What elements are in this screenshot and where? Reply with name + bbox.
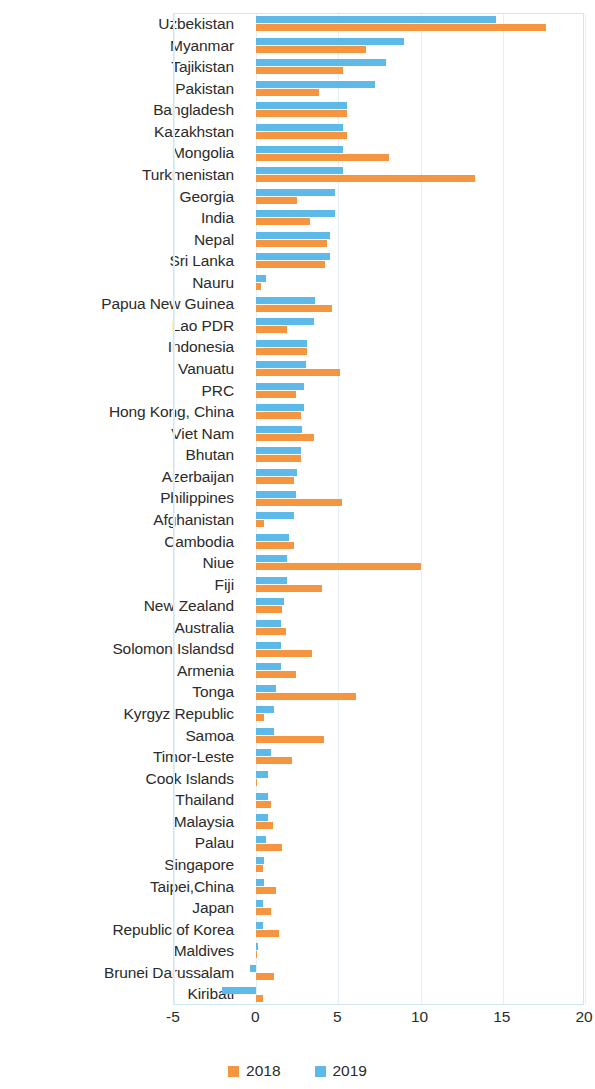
bar-2019: [256, 922, 263, 929]
bar-2018: [256, 369, 340, 376]
bar-2019: [256, 793, 268, 800]
bar-2018: [256, 261, 325, 268]
bar-2018: [256, 305, 332, 312]
bar-2019: [256, 900, 263, 907]
bar-group: [174, 14, 583, 36]
x-axis-tick-label: 15: [493, 1008, 510, 1026]
bar-2018: [256, 46, 366, 53]
bar-2019: [256, 598, 284, 605]
bar-2018: [256, 822, 272, 829]
bar-2019: [256, 857, 264, 864]
bar-group: [174, 639, 583, 661]
bar-group: [174, 575, 583, 597]
bar-2019: [256, 771, 268, 778]
bar-group: [174, 596, 583, 618]
bar-2019: [250, 965, 257, 972]
bar-2018: [256, 218, 310, 225]
legend-swatch-icon: [228, 1066, 239, 1077]
bar-2018: [256, 650, 312, 657]
bar-2018: [256, 542, 294, 549]
bar-2019: [256, 642, 281, 649]
bar-group: [174, 208, 583, 230]
bar-chart: UzbekistanMyanmarTajikistanPakistanBangl…: [0, 0, 595, 1089]
bar-2018: [256, 175, 475, 182]
bar-2019: [256, 706, 274, 713]
legend-item-2019: 2019: [315, 1062, 367, 1080]
bar-2019: [256, 469, 297, 476]
bar-2019: [256, 728, 274, 735]
bar-group: [174, 445, 583, 467]
bar-group: [174, 769, 583, 791]
bar-2019: [256, 232, 330, 239]
bar-2018: [256, 671, 295, 678]
bar-2018: [256, 283, 261, 290]
bar-2019: [256, 361, 305, 368]
bar-group: [174, 57, 583, 79]
bar-group: [174, 984, 583, 1006]
bar-2018: [256, 563, 420, 570]
bar-2019: [256, 577, 287, 584]
bar-2019: [256, 685, 276, 692]
bar-group: [174, 704, 583, 726]
bar-group: [174, 898, 583, 920]
bar-2018: [256, 693, 356, 700]
bar-group: [174, 230, 583, 252]
plot-area: [173, 13, 584, 1005]
legend-item-2018: 2018: [228, 1062, 280, 1080]
bar-group: [174, 122, 583, 144]
bar-2018: [256, 844, 282, 851]
bar-2019: [256, 59, 386, 66]
bar-2018: [256, 736, 323, 743]
bar-group: [174, 833, 583, 855]
bar-group: [174, 337, 583, 359]
bar-2018: [256, 348, 307, 355]
bar-2018: [256, 714, 264, 721]
bar-group: [174, 467, 583, 489]
x-axis-tick-label: 0: [251, 1008, 260, 1026]
bar-group: [174, 79, 583, 101]
bar-2018: [256, 110, 346, 117]
bar-2018: [256, 606, 282, 613]
bar-group: [174, 963, 583, 985]
bar-group: [174, 36, 583, 58]
legend-label: 2018: [246, 1062, 280, 1080]
bar-group: [174, 488, 583, 510]
bar-group: [174, 316, 583, 338]
bar-2019: [256, 404, 304, 411]
bar-group: [174, 618, 583, 640]
bar-2018: [256, 67, 343, 74]
bar-2018: [256, 477, 294, 484]
bar-group: [174, 683, 583, 705]
bar-2019: [222, 987, 257, 994]
bar-2019: [256, 275, 266, 282]
bar-2019: [256, 340, 307, 347]
x-axis-tick-label: -5: [166, 1008, 180, 1026]
bar-group: [174, 920, 583, 942]
bar-2019: [256, 189, 335, 196]
bar-2019: [256, 210, 335, 217]
legend-label: 2019: [333, 1062, 367, 1080]
bar-2018: [256, 240, 327, 247]
bar-2018: [256, 24, 545, 31]
bar-2018: [256, 197, 297, 204]
bar-2019: [256, 491, 295, 498]
x-axis-tick-label: 5: [333, 1008, 342, 1026]
bar-2019: [256, 318, 314, 325]
legend-swatch-icon: [315, 1066, 326, 1077]
bar-2018: [256, 995, 263, 1002]
bar-group: [174, 747, 583, 769]
bar-2018: [256, 499, 341, 506]
bar-group: [174, 273, 583, 295]
bar-2019: [256, 512, 294, 519]
bar-2018: [256, 132, 346, 139]
bar-2018: [256, 973, 274, 980]
bar-2019: [256, 555, 287, 562]
bar-2018: [256, 455, 300, 462]
bar-group: [174, 812, 583, 834]
bar-2019: [256, 383, 304, 390]
bar-group: [174, 143, 583, 165]
x-axis-tick-label: 20: [575, 1008, 592, 1026]
bar-2019: [256, 749, 271, 756]
x-axis-tick-label: 10: [411, 1008, 428, 1026]
bar-2018: [256, 326, 287, 333]
